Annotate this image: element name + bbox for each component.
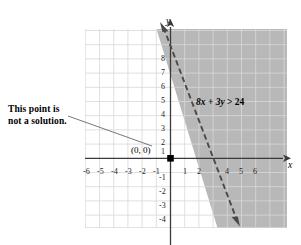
inequality-term-y: 3y — [216, 97, 225, 107]
origin-point-marker — [167, 155, 174, 162]
x-tick-2: 2 — [197, 167, 201, 176]
x-tick-4: 4 — [225, 167, 229, 176]
y-tick-6: 6 — [161, 82, 165, 91]
y-tick-2: 2 — [161, 138, 165, 147]
inequality-graph-figure: This point is not a solution. (0, 0) 8x … — [0, 0, 301, 245]
x-tick--4: -4 — [111, 167, 118, 176]
callout-line-2: not a solution. — [8, 115, 67, 127]
x-tick-5: 5 — [239, 167, 243, 176]
origin-point-label: (0, 0) — [131, 145, 151, 155]
x-tick-6: 6 — [253, 167, 257, 176]
inequality-term-x: 8x — [196, 97, 206, 107]
inequality-constant: 24 — [235, 97, 245, 107]
y-tick-8: 8 — [161, 54, 165, 63]
y-tick--4: -4 — [159, 215, 166, 224]
x-axis-label: x — [288, 160, 292, 170]
x-tick--5: -5 — [97, 167, 104, 176]
x-tick--3: -3 — [125, 167, 132, 176]
inequality-label: 8x + 3y > 24 — [196, 97, 244, 107]
y-tick--2: -2 — [159, 187, 166, 196]
y-axis-label: y — [166, 16, 170, 26]
inequality-plus: + — [208, 97, 213, 107]
x-tick-1: 1 — [183, 167, 187, 176]
y-tick-7: 7 — [161, 68, 165, 77]
y-tick-1: 1 — [161, 147, 165, 156]
inequality-relation: > — [227, 97, 232, 107]
y-tick-3: 3 — [161, 124, 165, 133]
x-tick--6: -6 — [83, 167, 90, 176]
callout-line-1: This point is — [8, 103, 67, 115]
y-tick-5: 5 — [161, 96, 165, 105]
x-tick--2: -2 — [139, 167, 146, 176]
callout-text: This point is not a solution. — [8, 103, 67, 127]
y-tick-4: 4 — [161, 110, 165, 119]
y-tick--3: -3 — [159, 201, 166, 210]
y-tick--1: -1 — [159, 173, 166, 182]
